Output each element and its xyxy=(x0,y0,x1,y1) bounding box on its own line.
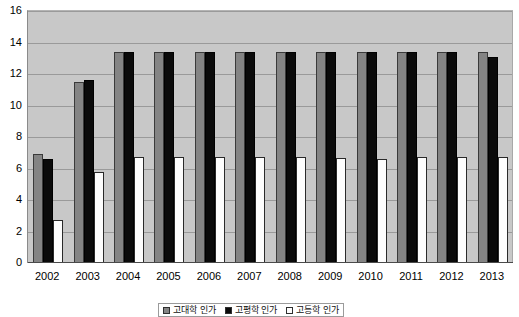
bar-group xyxy=(311,11,351,263)
bar-group xyxy=(28,11,68,263)
x-tick-label: 2002 xyxy=(27,266,67,286)
bar-groups xyxy=(28,11,513,263)
y-tick-label: 10 xyxy=(10,100,22,111)
bar[interactable] xyxy=(498,157,508,263)
legend-swatch-icon xyxy=(225,307,232,314)
bar[interactable] xyxy=(245,52,255,263)
bar[interactable] xyxy=(154,52,164,263)
bar[interactable] xyxy=(397,52,407,263)
bar-group xyxy=(68,11,108,263)
y-tick-label: 6 xyxy=(16,163,22,174)
bar[interactable] xyxy=(367,52,377,263)
x-tick-label: 2011 xyxy=(391,266,431,286)
bar[interactable] xyxy=(457,157,467,263)
bar[interactable] xyxy=(286,52,296,263)
bar[interactable] xyxy=(43,159,53,263)
bar[interactable] xyxy=(94,172,104,263)
bar[interactable] xyxy=(164,52,174,263)
legend-item[interactable]: 고대학 인가 xyxy=(163,306,216,315)
x-tick-label: 2005 xyxy=(148,266,188,286)
y-tick-label: 12 xyxy=(10,68,22,79)
x-tick-label: 2010 xyxy=(350,266,390,286)
chart-legend: 고대학 인가고평학 인가고등학 인가 xyxy=(158,303,344,317)
bar[interactable] xyxy=(377,159,387,263)
bar[interactable] xyxy=(255,157,265,263)
bar[interactable] xyxy=(84,80,94,263)
bar[interactable] xyxy=(296,157,306,263)
bar-group xyxy=(190,11,230,263)
x-axis: 2002200320042005200620072008200920102011… xyxy=(27,266,512,286)
legend-label: 고등학 인가 xyxy=(296,306,339,315)
x-tick-label: 2012 xyxy=(431,266,471,286)
bar[interactable] xyxy=(437,52,447,263)
bar[interactable] xyxy=(74,82,84,263)
x-tick-label: 2004 xyxy=(108,266,148,286)
bar-group xyxy=(149,11,189,263)
y-tick-label: 2 xyxy=(16,226,22,237)
x-tick-label: 2008 xyxy=(270,266,310,286)
legend-swatch-icon xyxy=(286,307,293,314)
bar[interactable] xyxy=(336,158,346,263)
bar[interactable] xyxy=(407,52,417,263)
legend-swatch-icon xyxy=(163,307,170,314)
bar[interactable] xyxy=(195,52,205,263)
x-tick-label: 2003 xyxy=(67,266,107,286)
bar-group xyxy=(392,11,432,263)
x-tick-label: 2006 xyxy=(189,266,229,286)
y-axis: 1614121086420 xyxy=(0,0,27,275)
bar[interactable] xyxy=(447,52,457,263)
bar[interactable] xyxy=(124,52,134,263)
bar[interactable] xyxy=(488,57,498,263)
bar[interactable] xyxy=(417,157,427,263)
bar-group xyxy=(230,11,270,263)
y-tick-label: 16 xyxy=(10,5,22,16)
bar[interactable] xyxy=(114,52,124,263)
bar[interactable] xyxy=(174,157,184,263)
bar[interactable] xyxy=(316,52,326,263)
plot-area xyxy=(27,10,513,263)
y-tick-label: 4 xyxy=(16,194,22,205)
bar[interactable] xyxy=(326,52,336,263)
x-tick-label: 2013 xyxy=(472,266,512,286)
bar-group xyxy=(351,11,391,263)
bar-group xyxy=(271,11,311,263)
bar-group xyxy=(109,11,149,263)
bar[interactable] xyxy=(134,157,144,263)
bar[interactable] xyxy=(357,52,367,263)
legend-item[interactable]: 고등학 인가 xyxy=(286,306,339,315)
legend-item[interactable]: 고평학 인가 xyxy=(225,306,278,315)
bar-group xyxy=(473,11,513,263)
bar[interactable] xyxy=(215,157,225,263)
bar[interactable] xyxy=(205,52,215,263)
axis-baseline xyxy=(28,262,513,263)
bar[interactable] xyxy=(33,154,43,263)
legend-label: 고대학 인가 xyxy=(173,306,216,315)
bar[interactable] xyxy=(53,220,63,263)
bar-group xyxy=(432,11,472,263)
y-tick-label: 0 xyxy=(16,257,22,268)
bar[interactable] xyxy=(235,52,245,263)
bar[interactable] xyxy=(478,52,488,263)
x-tick-label: 2007 xyxy=(229,266,269,286)
legend-label: 고평학 인가 xyxy=(235,306,278,315)
y-tick-label: 8 xyxy=(16,131,22,142)
y-tick-label: 14 xyxy=(10,37,22,48)
x-tick-label: 2009 xyxy=(310,266,350,286)
bar[interactable] xyxy=(276,52,286,263)
